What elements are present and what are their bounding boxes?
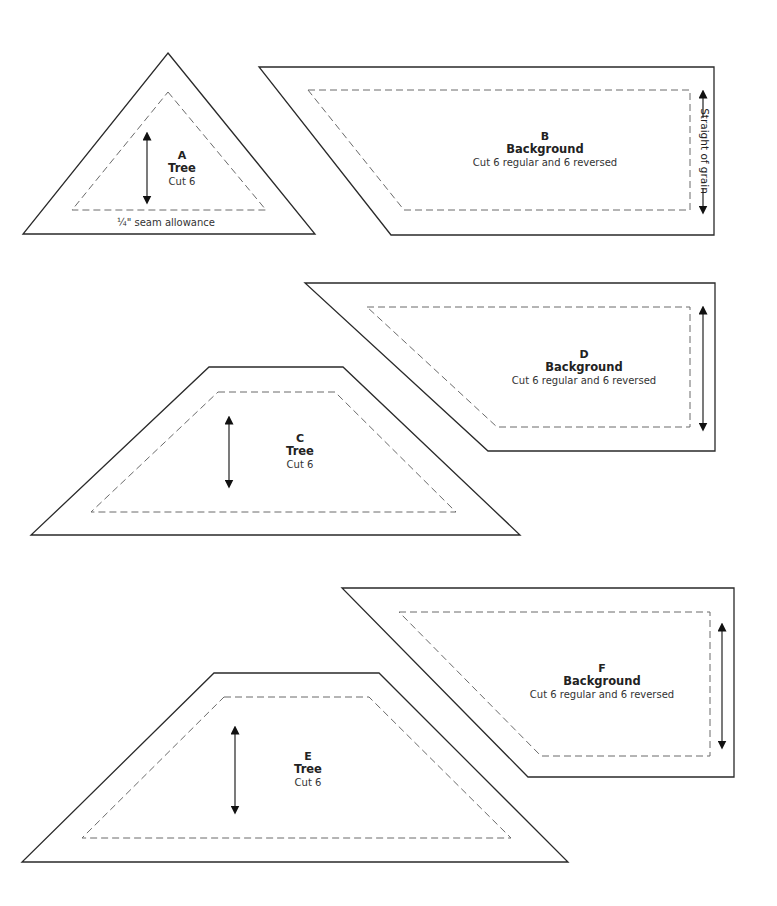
piece-f-label: F Background Cut 6 regular and 6 reverse… bbox=[530, 662, 674, 701]
piece-c-cut: Cut 6 bbox=[286, 458, 314, 471]
piece-a-fabric: Tree bbox=[168, 162, 196, 175]
piece-e-cut: Cut 6 bbox=[294, 776, 322, 789]
piece-c-fabric: Tree bbox=[286, 445, 314, 458]
piece-a-cut: Cut 6 bbox=[168, 175, 196, 188]
piece-d-label: D Background Cut 6 regular and 6 reverse… bbox=[512, 348, 656, 387]
piece-c-label: C Tree Cut 6 bbox=[286, 432, 314, 471]
pattern-templates bbox=[0, 0, 777, 906]
piece-f-fabric: Background bbox=[530, 675, 674, 688]
piece-b-fabric: Background bbox=[473, 143, 617, 156]
piece-a-label: A Tree Cut 6 bbox=[168, 149, 196, 188]
piece-d-fabric: Background bbox=[512, 361, 656, 374]
piece-d-cut: Cut 6 regular and 6 reversed bbox=[512, 374, 656, 387]
piece-e-label: E Tree Cut 6 bbox=[294, 750, 322, 789]
straight-of-grain-label: Straight of grain bbox=[699, 106, 711, 196]
piece-b-cut: Cut 6 regular and 6 reversed bbox=[473, 156, 617, 169]
piece-f-cut: Cut 6 regular and 6 reversed bbox=[530, 688, 674, 701]
seam-allowance-note: ¼" seam allowance bbox=[117, 217, 215, 228]
piece-e-fabric: Tree bbox=[294, 763, 322, 776]
piece-b-label: B Background Cut 6 regular and 6 reverse… bbox=[473, 130, 617, 169]
